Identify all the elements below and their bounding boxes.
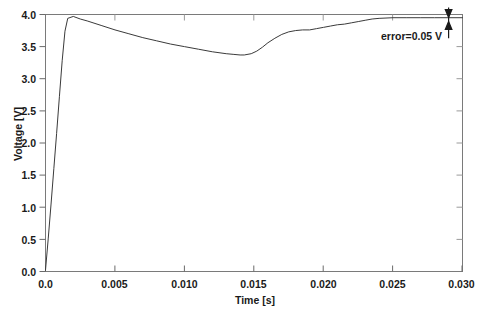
error-annotation-label: error=0.05 V — [381, 30, 442, 42]
x-tick-label-0.0: 0.0 — [25, 278, 66, 290]
x-tick-label-0.020: 0.020 — [303, 278, 344, 290]
y-axis-ticks — [40, 15, 46, 272]
x-tick-label-0.015: 0.015 — [233, 278, 274, 290]
x-tick-label-0.010: 0.010 — [164, 278, 205, 290]
x-tick-label-0.005: 0.005 — [94, 278, 135, 290]
x-tick-label-0.025: 0.025 — [372, 278, 413, 290]
y-tick-label-0.5: 0.5 — [8, 234, 36, 246]
x-axis-ticks — [46, 266, 463, 272]
chart-figure: 4.0 3.5 3.0 2.5 2.0 1.5 1.0 0.5 0.0 0.0 … — [0, 0, 496, 319]
y-tick-label-4.0: 4.0 — [8, 9, 36, 21]
voltage-time-line-chart — [0, 0, 496, 319]
x-tick-label-0.030: 0.030 — [441, 278, 482, 290]
error-arrow-icon — [445, 8, 452, 39]
y-tick-label-1.0: 1.0 — [8, 202, 36, 214]
x-axis-label: Time [s] — [205, 294, 305, 306]
y-axis-label: Voltage [V] — [12, 94, 24, 174]
y-tick-label-3.0: 3.0 — [8, 73, 36, 85]
plot-area-border — [46, 15, 463, 272]
x-axis-ticks-top — [115, 15, 393, 21]
y-axis-ticks-right — [457, 47, 463, 240]
voltage-curve — [46, 16, 463, 270]
y-tick-label-3.5: 3.5 — [8, 41, 36, 53]
y-tick-label-0.0: 0.0 — [8, 266, 36, 278]
